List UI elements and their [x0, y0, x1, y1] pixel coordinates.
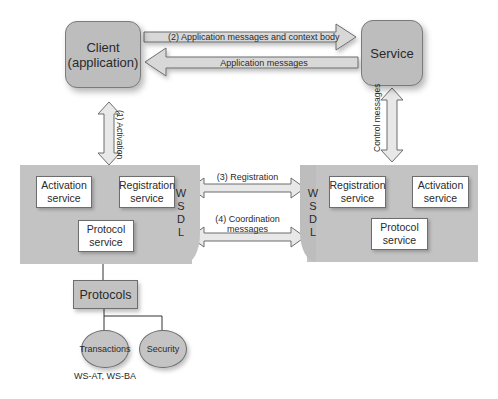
right-wsdl-label: W S D L [307, 187, 319, 239]
right-activation-service-sublabel: service [424, 192, 457, 205]
right-registration-service: Registration service [329, 176, 386, 208]
client-node: Client (application) [65, 21, 141, 88]
registration-label: (3) Registration [205, 172, 290, 183]
transactions-caption: WS-AT, WS-BA [72, 371, 138, 382]
wsdl-letter: W [175, 187, 187, 200]
left-protocol-service: Protocol service [78, 220, 134, 252]
security-label: Security [147, 344, 180, 354]
wsdl-letter: D [307, 213, 319, 226]
left-wsdl-label: W S D L [175, 187, 187, 239]
left-activation-service: Activation service [36, 176, 92, 208]
right-protocol-service-sublabel: service [383, 234, 416, 247]
wsdl-letter: S [307, 200, 319, 213]
right-registration-service-sublabel: service [341, 192, 374, 205]
security-node: Security [139, 330, 187, 368]
wsdl-letter: D [175, 213, 187, 226]
protocols-label: Protocols [79, 288, 131, 302]
left-registration-service-label: Registration [119, 179, 175, 192]
activation-label: (1) Activation [115, 110, 125, 159]
left-protocol-service-label: Protocol [87, 223, 126, 236]
right-registration-service-label: Registration [329, 179, 385, 192]
client-label: Client [86, 40, 119, 55]
control-messages-label: Control messages [372, 83, 382, 152]
left-registration-service-sublabel: service [130, 192, 163, 205]
client-sublabel: (application) [68, 55, 139, 70]
transactions-node: Transactions [81, 330, 129, 368]
right-activation-service: Activation service [412, 176, 469, 208]
right-protocol-service-label: Protocol [380, 221, 419, 234]
control-messages-arrow [381, 88, 403, 162]
wsdl-letter: W [307, 187, 319, 200]
left-activation-service-sublabel: service [47, 192, 80, 205]
app-messages-label: Application messages [180, 58, 348, 69]
transactions-label: Transactions [79, 344, 130, 354]
service-label: Service [370, 46, 413, 61]
left-protocol-service-sublabel: service [89, 236, 122, 249]
left-activation-service-label: Activation [41, 179, 87, 192]
service-node: Service [361, 20, 423, 86]
left-registration-service: Registration service [119, 176, 175, 208]
right-protocol-service: Protocol service [371, 218, 428, 250]
wsdl-letter: L [175, 226, 187, 239]
wsdl-letter: L [307, 226, 319, 239]
wsdl-letter: S [175, 200, 187, 213]
coordination-label-line2: messages [205, 224, 290, 235]
right-activation-service-label: Activation [418, 179, 464, 192]
protocols-node: Protocols [73, 280, 138, 309]
app-context-label: (2) Application messages and context bod… [168, 32, 336, 43]
